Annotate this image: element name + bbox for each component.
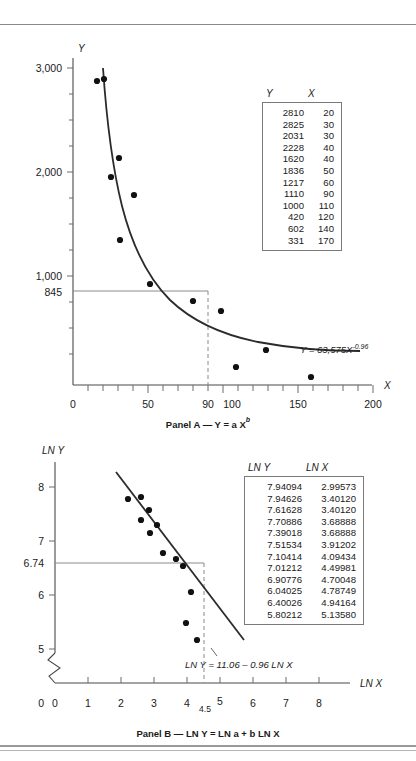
panel-b-y-tick-7: 7 [38,535,44,547]
cell-x: 20 [304,107,334,119]
panel-b-table-header: LN Y LN X [244,462,364,476]
cell-lny: 6.40026 [252,597,302,609]
cell-lnx: 3.91202 [302,539,356,551]
panel-a-caption: Panel A — Y = a Xb [0,414,416,432]
cell-lnx: 4.94164 [302,597,356,609]
panel-b-point [138,494,144,500]
bottom-divider-rule-inner [0,750,416,751]
panel-a-data-table: Y X 281020 282530 203130 222840 162040 1… [262,88,342,251]
table-row: 7.946263.40120 [252,493,356,505]
cell-y: 2228 [270,142,304,154]
panel-b-y-tick-6: 6 [38,589,44,601]
cell-y: 602 [270,223,304,235]
cell-lny: 7.01212 [252,562,302,574]
table-row: 111090 [270,188,334,200]
panel-a-table-header-x: X [308,88,338,99]
table-row: 7.708863.68888 [252,516,356,528]
panel-b-equation-text: LN Y = 11.06 – 0.96 LN X [185,659,293,670]
panel-a-y-tick-1000: 1,000 [36,270,62,282]
cell-lnx: 4.49981 [302,562,356,574]
panel-b-y-tick-5: 5 [38,643,44,655]
cell-lnx: 2.99573 [302,481,356,493]
panel-b-caption: Panel B — LN Y = LN a + b LN X [0,723,416,741]
panel-b-point [138,517,144,523]
cell-lny: 5.80212 [252,609,302,621]
cell-x: 40 [304,153,334,165]
panel-b-point [180,563,186,569]
panel-b-fit-line [116,472,244,640]
panel-a-x-tick-150: 150 [289,398,307,410]
cell-x: 170 [304,235,334,247]
panel-b-x-tick-8: 8 [316,697,322,709]
panel-a-table-body: 281020 282530 203130 222840 162040 18365… [262,102,342,251]
panel-a-equation-base: Y = 63,575X [300,344,353,355]
panel-a-point [218,308,224,314]
table-row: 183650 [270,165,334,177]
table-row: 420120 [270,211,334,223]
cell-x: 30 [304,130,334,142]
panel-b-x-tick-1: 1 [85,697,91,709]
panel-a-point [108,174,114,180]
table-row: 222840 [270,142,334,154]
table-row: 602140 [270,223,334,235]
cell-lnx: 5.13580 [302,609,356,621]
panel-a-y-tick-3000: 3,000 [36,62,62,74]
table-row: 281020 [270,107,334,119]
panel-b-point [146,507,152,513]
cell-lny: 7.61628 [252,504,302,516]
table-row: 7.616283.40120 [252,504,356,516]
panel-b-point [147,530,153,536]
panel-a-table-header-y: Y [266,88,300,99]
panel-a-point [116,155,122,161]
panel-b-caption-text: Panel B — LN Y = LN a + b LN X [136,728,279,739]
table-row: 203130 [270,130,334,142]
cell-x: 90 [304,188,334,200]
cell-x: 30 [304,119,334,131]
panel-a-x-tickmarks [88,385,373,393]
table-row: 7.104144.09434 [252,551,356,563]
cell-lny: 6.90776 [252,574,302,586]
table-row: 7.390183.68888 [252,527,356,539]
table-row: 1000110 [270,200,334,212]
panel-b-x-tick-5: 5 [217,695,223,707]
cell-lnx: 3.40120 [302,493,356,505]
panel-a-point [308,374,314,380]
table-row: 5.802125.13580 [252,609,356,621]
cell-lny: 7.51534 [252,539,302,551]
panel-a-point [94,78,100,84]
bottom-divider-rule-outer [0,745,416,747]
panel-b-y-axis-label: LN Y [42,445,65,456]
table-row: 162040 [270,153,334,165]
cell-y: 2810 [270,107,304,119]
panel-a-caption-sup: b [246,416,250,423]
panel-b-equation-leader [211,648,217,656]
panel-b-x-tick-3: 3 [151,697,157,709]
table-row: 7.012124.49981 [252,562,356,574]
panel-b-x-axis-label: LN X [360,678,383,689]
cell-y: 2031 [270,130,304,142]
panel-b-point [188,589,194,595]
cell-lny: 7.94626 [252,493,302,505]
panel-b-x-tick-2: 2 [118,697,124,709]
panel-a-point [233,364,239,370]
panel-b-point [154,522,160,528]
table-row: 6.907764.70048 [252,574,356,586]
panel-b-x-tick-0: 0 [52,697,58,709]
table-row: 6.400264.94164 [252,597,356,609]
cell-lnx: 4.70048 [302,574,356,586]
table-row: 7.940942.99573 [252,481,356,493]
cell-x: 60 [304,177,334,189]
cell-x: 140 [304,223,334,235]
cell-y: 1620 [270,153,304,165]
panel-a-point [117,237,123,243]
panel-b-table-body: 7.940942.99573 7.946263.40120 7.616283.4… [244,476,364,625]
panel-b-equation: LN Y = 11.06 – 0.96 LN X [185,648,293,670]
panel-a-y-tick-845: 845 [44,286,62,298]
panel-a-point [131,192,137,198]
panel-a-chart: Y X 3,000 2,000 1,000 845 0 50 90 100 15… [0,30,416,430]
panel-a-y-axis-label: Y [78,43,86,54]
cell-y: 1110 [270,188,304,200]
svg-text:Y = 63,575X-0.96: Y = 63,575X-0.96 [300,343,368,355]
panel-a-x-tick-50: 50 [142,398,154,410]
panel-b-point [125,496,131,502]
